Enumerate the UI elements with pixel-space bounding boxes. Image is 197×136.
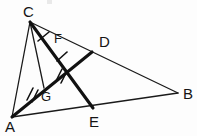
point-label-G: G [41, 89, 51, 104]
point-label-C: C [23, 3, 34, 20]
scan-artifact-smudge [47, 0, 52, 4]
point-label-A: A [5, 118, 15, 135]
point-label-D: D [99, 33, 110, 50]
point-label-B: B [183, 85, 193, 102]
geometry-figure-root: A B C D E F G [0, 0, 197, 136]
point-label-E: E [89, 113, 99, 130]
point-label-F: F [54, 31, 62, 46]
geometry-figure-svg: A B C D E F G [0, 0, 197, 136]
